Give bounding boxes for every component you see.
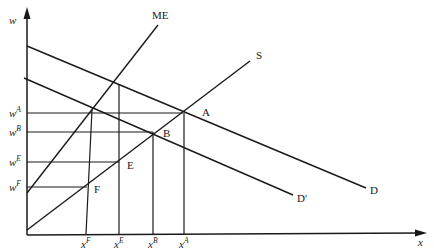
vertical-guides (86, 84, 184, 234)
x-tick-xF: xF (80, 236, 91, 250)
y-tick-wE: wE (9, 154, 21, 168)
demand-curve-d-prime (24, 78, 293, 195)
x-tick-xA: xA (178, 236, 189, 250)
point-labels: A B E F (94, 106, 210, 195)
point-a-label: A (202, 106, 210, 118)
x-tick-xB: xB (147, 236, 158, 250)
marginal-expenditure-group: ME (27, 9, 169, 193)
demand-curve-d (27, 46, 366, 188)
x-tick-xE: xE (113, 236, 124, 250)
demand-curve-d-prime-label: D' (297, 192, 307, 204)
y-axis-arrow-icon (24, 7, 31, 19)
supply-curve-group: S (27, 49, 262, 230)
y-tick-wF: wF (9, 179, 21, 193)
supply-curve-s-label: S (256, 49, 262, 61)
y-tick-labels: wA wB wE wF (9, 105, 21, 193)
y-tick-wB: wB (9, 124, 21, 138)
y-axis-label: w (9, 14, 17, 26)
demand-curves: D D' (24, 46, 378, 204)
guide-xF (86, 110, 92, 234)
point-f-label: F (94, 183, 100, 195)
horizontal-guides (27, 113, 183, 187)
monopsony-diagram: w x D D' S ME A B E F w (0, 0, 434, 250)
marginal-expenditure-curve (27, 25, 158, 193)
point-e-label: E (127, 159, 134, 171)
marginal-expenditure-label: ME (152, 9, 169, 21)
axes: w x (9, 7, 427, 248)
point-b-label: B (163, 127, 170, 139)
supply-curve-s (27, 61, 250, 230)
x-axis-label: x (417, 236, 423, 248)
demand-curve-d-label: D (370, 184, 378, 196)
y-tick-wA: wA (9, 105, 21, 119)
x-tick-labels: xF xE xB xA (80, 236, 189, 250)
